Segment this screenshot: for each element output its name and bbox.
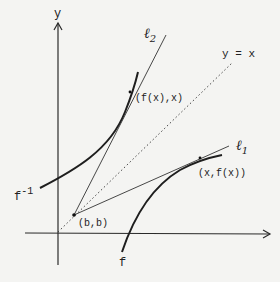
tangent-line-l2-label: ℓ2 — [144, 25, 156, 44]
curve-f-label: f — [119, 256, 126, 270]
curve-f-inverse — [40, 72, 138, 188]
diagram-canvas: y y = x f-1 f ℓ2 ℓ1 (b,b) (f(x),x) (x,f(… — [0, 0, 280, 282]
x-axis — [25, 230, 270, 238]
tangent-line-l2 — [74, 35, 166, 215]
point-b-b — [72, 213, 76, 217]
point-b-b-label: (b,b) — [78, 218, 108, 229]
point-x-fx — [199, 157, 202, 160]
identity-line-label: y = x — [222, 48, 255, 60]
point-fx-x — [129, 91, 132, 94]
identity-line — [58, 62, 233, 232]
curve-f-inverse-label: f-1 — [14, 186, 33, 204]
y-axis-label: y — [54, 7, 61, 21]
tangent-line-l1 — [74, 146, 229, 215]
point-x-fx-label: (x,f(x)) — [198, 168, 246, 179]
tangent-line-l1-label: ℓ1 — [236, 137, 248, 156]
point-fx-x-label: (f(x),x) — [135, 93, 183, 104]
